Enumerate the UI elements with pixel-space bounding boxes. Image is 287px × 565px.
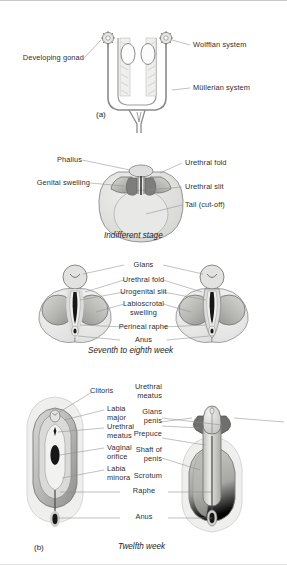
- label-phallus: Phallus: [22, 156, 82, 165]
- label-scrotum: Scrotum: [110, 472, 162, 481]
- label-urogenital-slit: Urogenital slit: [111, 288, 176, 297]
- left-figure-7-8: [39, 265, 111, 343]
- label-glans-penis: Glans penis: [110, 408, 162, 425]
- label-anus-12wk: Anus: [120, 513, 168, 522]
- male-figure-12wk: [182, 406, 242, 532]
- label-wolffian-system: Wolffian system: [193, 41, 246, 50]
- label-prepuce: Prepuce: [110, 430, 162, 439]
- label-urethral-fold-indifferent: Urethral fold: [185, 159, 227, 168]
- label-genital-swelling: Genital swelling: [4, 179, 90, 188]
- label-anus-78: Anus: [123, 336, 164, 345]
- label-developing-gonad: Developing gonad: [4, 54, 84, 63]
- label-urethral-fold-78: Urethral fold: [113, 276, 174, 285]
- label-tail-cut-off: Tail (cut-off): [185, 201, 225, 210]
- caption-indifferent-stage: Indifferent stage: [104, 231, 163, 240]
- developing-gonad-icon: [101, 31, 173, 48]
- label-glans: Glans: [113, 261, 174, 270]
- label-labioscrotal-swelling: Labioscrotal swelling: [111, 300, 176, 317]
- panel-label-b: (b): [34, 543, 44, 552]
- label-urethral-meatus-male: Urethral meatus: [110, 383, 162, 400]
- leader-lines-panel-a: [84, 40, 190, 90]
- label-urethral-slit: Urethral slit: [185, 183, 224, 192]
- panel-label-a: (a): [96, 110, 106, 119]
- leader-lines-12wk: [58, 392, 284, 518]
- right-figure-7-8: [176, 265, 248, 343]
- caption-seventh-eighth-week: Seventh to eighth week: [88, 346, 173, 355]
- female-figure-12wk: [27, 397, 83, 527]
- label-shaft-of-penis: Shaft of penis: [110, 446, 162, 463]
- panel-indifferent-stage: [82, 160, 183, 242]
- label-raphe: Raphe: [120, 487, 168, 496]
- caption-twelfth-week: Twelfth week: [118, 542, 165, 551]
- label-mullerian-system: Müllerian system: [193, 84, 250, 93]
- label-perineal-raphe: Perineal raphe: [111, 323, 176, 332]
